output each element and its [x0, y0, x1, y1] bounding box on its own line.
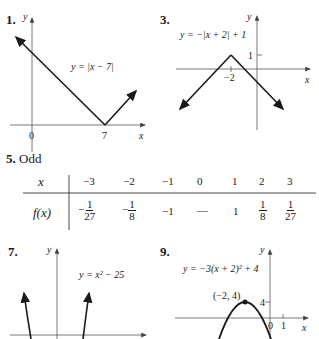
problem-5-header: 5. Odd [6, 151, 41, 167]
table-x-val: −3 [83, 175, 95, 187]
graph-7 [10, 249, 146, 339]
table-x-val: −1 [162, 175, 174, 187]
problem-7-y-label: y [47, 244, 51, 255]
table-x-header: x [38, 174, 44, 190]
table-fx-val: — [197, 204, 208, 216]
table-x-val: 3 [287, 175, 293, 187]
problem-7-equation: y = x² − 25 [79, 269, 124, 280]
table-fx-val: −127 [78, 199, 95, 222]
table-fx-header: f(x) [33, 205, 51, 221]
table-fx-val: 127 [285, 199, 296, 222]
problem-9-tick-4: 4 [260, 297, 265, 308]
problem-9-number: 9. [160, 244, 170, 260]
problem-9-vertex-label: (−2, 4) [213, 290, 240, 301]
table-fx-val: −18 [122, 199, 136, 222]
problem-5-number: 5. [6, 151, 16, 166]
problem-7-number: 7. [8, 244, 18, 260]
table-fx-val: −1 [162, 205, 174, 217]
table-x-val: 2 [259, 175, 265, 187]
problem-5-answer: Odd [19, 151, 41, 166]
table-x-val: 1 [232, 175, 238, 187]
table-fx-val: 18 [259, 199, 267, 222]
problem-9-tick-1: 1 [281, 320, 286, 331]
graphs-canvas [0, 0, 319, 339]
problem-9-x-label: x [302, 322, 306, 333]
graph-1 [10, 18, 145, 152]
table-x-val: −2 [123, 175, 135, 187]
table-fx-val: 1 [233, 205, 239, 217]
graph-3 [176, 16, 310, 130]
problem-9-y-label: y [260, 244, 264, 255]
problem-9-tick-0: 0 [268, 320, 273, 331]
problem-9-equation: y = −3(x + 2)² + 4 [183, 263, 259, 274]
table-x-val: 0 [197, 175, 203, 187]
